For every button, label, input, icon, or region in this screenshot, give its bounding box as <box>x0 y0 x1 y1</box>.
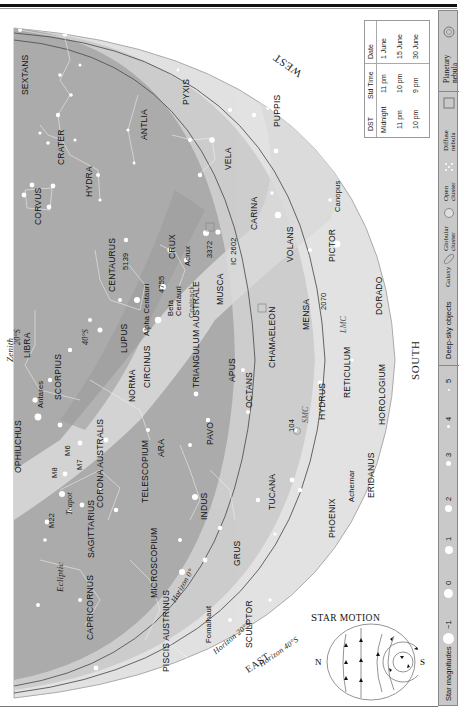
constellation-centaurus: CENTAURUS <box>108 238 117 292</box>
magnitude-4-dot <box>447 425 450 428</box>
constellation-ophiuchus: OPHIUCHUS <box>14 420 23 473</box>
magnitude-2-label: 2 <box>445 497 453 501</box>
legend-diffuse-nebula: Diffuse nebula <box>443 121 458 151</box>
time-table-cell: 30 June <box>412 34 419 59</box>
time-table-header-date: Date <box>367 44 374 59</box>
constellation-microscopium: MICROSCOPIUM <box>150 528 159 598</box>
constellation-chamaeleon: CHAMAELEON <box>268 306 277 368</box>
star-fomalhaut: Fomalhaut <box>205 606 213 643</box>
constellation-grus: GRUS <box>233 541 242 566</box>
time-table-cell: 11 pm <box>380 74 387 93</box>
constellation-sextans: SEXTANS <box>21 55 30 95</box>
time-table: Date Std Time DST 1 June 11 pm Midnight … <box>364 20 430 138</box>
time-table-cell: 11 pm <box>396 110 403 129</box>
star-motion-north: N <box>315 657 322 667</box>
constellation-antlia: ANTLIA <box>140 109 149 140</box>
time-table-cell: 10 pm <box>412 110 419 129</box>
feature-teapot: Teapot <box>66 492 74 515</box>
star-alpha-centauri: Alpha Centauri <box>143 284 151 336</box>
constellation-octans: OCTANS <box>245 372 254 408</box>
legend-globular-cluster: Globular cluster <box>443 221 458 251</box>
constellation-reticulum: RETICULUM <box>343 347 352 398</box>
constellation-mensa: MENSA <box>302 299 311 330</box>
time-table-header-std: Std Time <box>367 71 374 99</box>
magnitude-4-label: 4 <box>445 417 453 421</box>
constellation-phoenix: PHOENIX <box>328 498 337 538</box>
star-motion-diagram <box>324 622 418 702</box>
constellation-tucana: TUCANA <box>268 474 277 510</box>
time-table-header-dst: DST <box>367 117 374 131</box>
magnitude-3-label: 3 <box>445 453 453 457</box>
constellation-horologium: HOROLOGIUM <box>378 364 387 425</box>
star-canopus: Canopus <box>334 181 342 212</box>
deep-sky-2070: 2070 <box>320 293 328 311</box>
legend-galaxy: Galaxy <box>445 267 452 287</box>
magnitude-5-label: 5 <box>445 379 453 383</box>
lat-40s-label: 40°S <box>82 329 90 345</box>
constellation-puppis: PUPPIS <box>273 95 282 127</box>
globular-cluster-icon <box>443 207 455 219</box>
magnitude-2-dot <box>445 505 452 512</box>
lat-20s-label: 20°S <box>14 329 22 345</box>
magnitude-1-label: 1 <box>445 537 453 541</box>
deep-sky-m6: M6 <box>64 445 72 456</box>
deep-sky-104: 104 <box>288 419 296 432</box>
galaxy-icon <box>442 253 456 265</box>
constellation-musca: MUSCA <box>216 273 225 305</box>
constellation-circinus: CIRCINUS <box>143 345 152 388</box>
constellation-apus: APUS <box>228 358 237 382</box>
constellation-pavo: PAVO <box>206 422 215 445</box>
time-table-cell: Midnight <box>380 107 387 133</box>
constellation-scorpius: SCORPIUS <box>54 354 63 400</box>
magnitude-0-label: 0 <box>445 581 453 585</box>
constellation-volans: VOLANS <box>286 226 295 262</box>
constellation-crux: CRUX <box>168 234 177 259</box>
deep-sky-m8: M8 <box>51 467 59 478</box>
star-antares: Antares <box>37 381 45 408</box>
magnitude-minus1-dot <box>443 633 454 644</box>
deep-sky-3372: 3372 <box>206 241 214 259</box>
time-table-cell: 1 June <box>380 38 387 59</box>
constellation-libra: LIBRA <box>23 332 32 358</box>
star-beta-centauri: Beta Centauri <box>167 276 182 316</box>
star-motion-south: S <box>420 657 425 667</box>
constellation-norma: NORMA <box>128 369 137 402</box>
constellation-dorado: DORADO <box>375 276 384 315</box>
constellation-hydra: HYDRA <box>85 166 94 197</box>
constellation-pictor: PICTOR <box>328 229 337 262</box>
star-acrux: Acrux <box>184 246 192 266</box>
time-table-cell: 15 June <box>396 34 403 59</box>
legend-strip: Planetary nebula Diffuse nebula Open clu… <box>438 10 458 706</box>
constellation-corvus: CORVUS <box>34 188 43 225</box>
time-table-cell: 10 pm <box>396 74 403 93</box>
magnitude-3-dot <box>446 461 451 466</box>
open-cluster-icon <box>443 161 455 173</box>
deep-sky-4755: 4755 <box>158 276 166 294</box>
legend-deep-sky-title: Deep-sky objects <box>445 301 453 359</box>
time-table-cell: 9 pm <box>412 77 419 93</box>
feature-lmc: LMC <box>340 316 348 333</box>
constellation-eridanus: ERIDANUS <box>367 452 376 498</box>
constellation-piscis-austrinus: PISCIS AUSTRINUS <box>162 590 171 672</box>
constellation-indus: INDUS <box>200 493 209 520</box>
constellation-corona-australis: CORONA AUSTRALIS <box>96 419 105 508</box>
deep-sky-5139: 5139 <box>122 253 130 271</box>
constellation-hydrus: HYDRUS <box>318 383 327 420</box>
direction-south: SOUTH <box>409 340 421 380</box>
magnitude-5-dot <box>448 389 450 391</box>
legend-planetary-nebula: Planetary nebula <box>443 53 458 83</box>
planetary-nebula-icon <box>442 25 456 39</box>
constellation-vela: VELA <box>224 147 233 170</box>
deep-sky-ic2602: IC 2602 <box>230 237 238 265</box>
magnitude-minus1-label: −1 <box>445 620 453 629</box>
constellation-triangulum-australe: TRIANGULUM AUSTRALE <box>192 281 201 388</box>
legend-magnitudes-title: Star magnitudes <box>445 646 453 701</box>
legend-open-cluster: Open cluster <box>443 171 458 201</box>
constellation-pyxis: PYXIS <box>182 79 191 105</box>
constellation-sculptor: SCULPTOR <box>245 600 254 648</box>
star-achernar: Achernar <box>348 470 356 502</box>
constellation-ara: ARA <box>157 439 166 457</box>
constellation-lupus: LUPUS <box>120 324 129 353</box>
ecliptic-label: Ecliptic <box>56 562 65 592</box>
diffuse-nebula-icon <box>443 97 455 109</box>
